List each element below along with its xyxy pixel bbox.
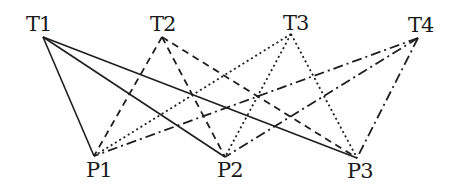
edge-t3-p2	[225, 34, 291, 157]
edge-t2-p1	[94, 37, 162, 156]
bipartite-diagram: T1 T2 T3 T4 P1 P2 P3	[0, 0, 458, 193]
node-label-t2: T2	[150, 14, 175, 35]
node-label-p2: P2	[217, 160, 243, 181]
node-label-t1: T1	[26, 14, 51, 35]
node-label-t4: T4	[408, 15, 433, 36]
edge-t2-p3	[162, 37, 357, 158]
edge-t1-p1	[43, 37, 94, 156]
edge-t3-p3	[291, 34, 357, 158]
node-label-p3: P3	[347, 161, 373, 182]
node-label-p1: P1	[86, 160, 112, 181]
edge-t2-p2	[162, 37, 225, 157]
node-label-t3: T3	[283, 13, 308, 34]
